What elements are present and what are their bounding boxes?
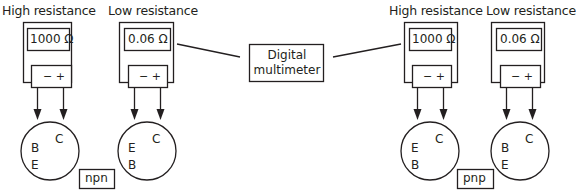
transistor-1-pin-upper-left: B: [31, 142, 39, 154]
meter-2-title: Low resistance: [108, 5, 198, 18]
arrow-down-icon: [157, 109, 165, 120]
meter-1-terminals: − +: [43, 71, 65, 82]
transistor-2: [118, 122, 176, 180]
arrow-down-icon: [529, 109, 537, 120]
arrow-down-icon: [34, 109, 42, 120]
pnp-label: pnp: [463, 172, 486, 184]
meter-2-terminals: − +: [139, 71, 161, 82]
transistor-4-pin-upper-left: B: [501, 142, 509, 154]
npn-label: npn: [85, 172, 108, 184]
transistor-4-pin-top-right: C: [525, 133, 533, 145]
transistor-4-pin-lower-left: E: [501, 159, 509, 171]
multimeter-label: Digital multimeter: [250, 48, 324, 78]
meter-2-reading: 0.06 Ω: [128, 33, 168, 45]
transistor-1-pin-lower-left: E: [31, 159, 39, 171]
transistor-1-pin-top-right: C: [55, 133, 63, 145]
transistor-3-pin-upper-left: E: [411, 142, 419, 154]
meter-1-title: High resistance: [2, 5, 96, 18]
transistor-2-pin-top-right: C: [152, 133, 160, 145]
transistor-3: [401, 122, 459, 180]
multimeter-label-line2: multimeter: [250, 63, 324, 78]
transistor-3-pin-top-right: C: [435, 133, 443, 145]
meter-4-terminals: − +: [511, 71, 533, 82]
transistor-2-pin-upper-left: E: [128, 142, 136, 154]
transistor-2-pin-lower-left: B: [128, 159, 136, 171]
arrow-down-icon: [60, 109, 68, 120]
meter-1-reading: 1000 Ω: [30, 33, 74, 45]
transistor-1: [21, 122, 79, 180]
meter-4-reading: 0.06 Ω: [500, 33, 540, 45]
transistor-3-pin-lower-left: B: [411, 159, 419, 171]
meter-3-reading: 1000 Ω: [412, 33, 456, 45]
arrow-down-icon: [440, 109, 448, 120]
arrow-down-icon: [503, 109, 511, 120]
meter-3-terminals: − +: [423, 71, 445, 82]
transistor-4: [491, 122, 549, 180]
arrow-down-icon: [414, 109, 422, 120]
meter-3-title: High resistance: [389, 5, 483, 18]
connector-line-left: [177, 44, 240, 57]
arrow-down-icon: [131, 109, 139, 120]
meter-4-title: Low resistance: [486, 5, 576, 18]
connector-line-right: [333, 44, 401, 57]
multimeter-label-line1: Digital: [250, 48, 324, 63]
